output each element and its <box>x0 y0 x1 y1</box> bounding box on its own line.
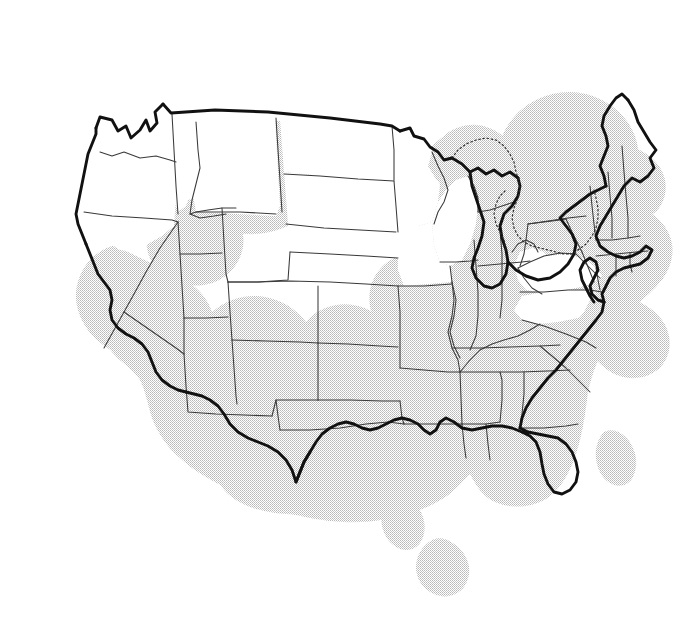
state-fill-north-dakota <box>280 118 394 180</box>
state-fill-south-dakota <box>284 172 398 232</box>
us-range-map <box>0 0 696 621</box>
range-map-figure <box>0 0 696 621</box>
